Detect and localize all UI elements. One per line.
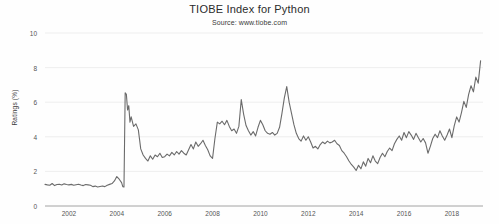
chart-canvas [0,0,499,224]
y-tick-label: 0 [21,203,37,210]
x-tick-label: 2018 [437,210,467,217]
data-line-python [45,61,481,187]
x-tick-label: 2016 [389,210,419,217]
x-tick-label: 2010 [245,210,275,217]
chart-container: TIOBE Index for Python Source: www.tiobe… [0,0,499,224]
x-tick-label: 2006 [150,210,180,217]
y-tick-label: 6 [21,99,37,106]
y-tick-label: 4 [21,133,37,140]
gridlines-group [45,33,483,206]
y-tick-label: 10 [21,30,37,37]
y-tick-label: 2 [21,168,37,175]
x-tick-label: 2012 [293,210,323,217]
x-tick-label: 2008 [198,210,228,217]
x-tick-label: 2002 [54,210,84,217]
x-tick-label: 2014 [341,210,371,217]
y-tick-label: 8 [21,64,37,71]
x-tick-label: 2004 [102,210,132,217]
